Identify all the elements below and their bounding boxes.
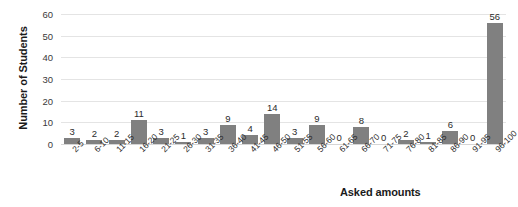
bar-slot: 1 [417,14,439,144]
y-tick-label: 10 [42,117,53,128]
bar-slot: 14 [261,14,283,144]
bar-slot: 9 [217,14,239,144]
bar-value-label: 56 [484,11,506,22]
bar-slot: 4 [239,14,261,144]
bar-slot: 3 [284,14,306,144]
x-axis-tick-labels: 2-56-1011-1516-2021-2526-3031-3536-4041-… [61,145,506,185]
y-tick-label: 50 [42,30,53,41]
bar-slot: 0 [373,14,395,144]
bar-slot: 2 [395,14,417,144]
bar-series: 32211313941439080216056 [61,14,506,144]
y-tick-label: 60 [42,9,53,20]
bar-slot: 3 [150,14,172,144]
plot-area: 32211313941439080216056 [61,14,506,144]
bar-value-label: 6 [439,119,461,130]
x-axis-title: Asked amounts [340,186,421,198]
bar-slot: 3 [195,14,217,144]
bar-slot: 11 [128,14,150,144]
bar-value-label: 8 [350,115,372,126]
bar-value-label: 3 [61,126,83,137]
bar-slot: 8 [350,14,372,144]
y-tick-label: 0 [48,139,53,150]
y-axis-tick-labels: 0102030405060 [0,14,57,144]
bar-slot: 2 [83,14,105,144]
bar-slot: 3 [61,14,83,144]
bar-slot: 9 [306,14,328,144]
bar-value-label: 9 [217,113,239,124]
y-tick-label: 30 [42,74,53,85]
bar [487,23,503,144]
bar-slot: 56 [484,14,506,144]
bar-value-label: 11 [128,108,150,119]
bar-slot: 6 [439,14,461,144]
y-tick-label: 20 [42,95,53,106]
bar-slot: 1 [172,14,194,144]
bar-value-label: 9 [306,113,328,124]
bar-slot: 0 [462,14,484,144]
bar-slot: 2 [106,14,128,144]
y-tick-label: 40 [42,52,53,63]
bar-slot: 0 [328,14,350,144]
bar-value-label: 14 [261,102,283,113]
